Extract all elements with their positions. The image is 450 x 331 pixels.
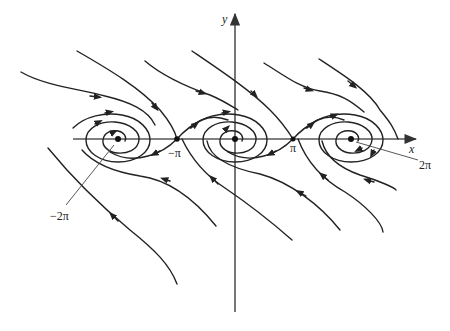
label-two-pi: 2π bbox=[419, 158, 431, 172]
y-axis-label: y bbox=[221, 12, 228, 26]
saddle-neg-pi bbox=[174, 136, 180, 142]
label-pi: π bbox=[290, 141, 296, 155]
phase-portrait: y x −π π 2π −2π bbox=[0, 0, 450, 331]
x-axis-label: x bbox=[408, 142, 415, 156]
spiral-center-two-pi bbox=[348, 136, 354, 142]
lower-trajectories bbox=[48, 139, 396, 284]
label-neg-pi: −π bbox=[168, 146, 181, 160]
spiral-neg-two-pi bbox=[73, 112, 150, 162]
spiral-two-pi bbox=[306, 114, 383, 162]
upper-trajectories bbox=[21, 51, 398, 139]
spiral-center-origin bbox=[232, 136, 238, 142]
spiral-origin bbox=[190, 112, 267, 162]
spiral-center-neg-two-pi bbox=[115, 136, 121, 142]
axes bbox=[73, 14, 416, 312]
leader-neg-two-pi bbox=[66, 145, 114, 205]
label-neg-two-pi: −2π bbox=[50, 209, 69, 223]
